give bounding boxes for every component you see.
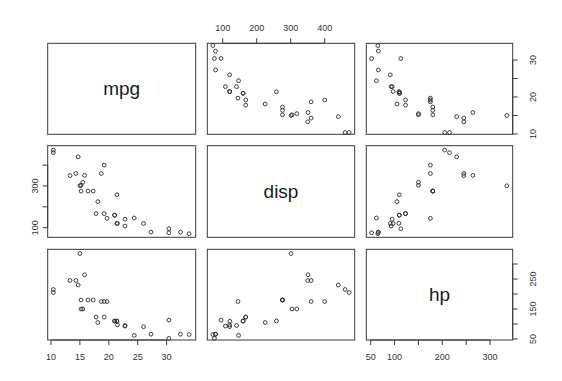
- point-mpg-vs-disp-5: [263, 102, 267, 106]
- tick-label-disp-top-300: 300: [283, 23, 298, 33]
- point-mpg-vs-hp-30: [505, 114, 509, 118]
- point-mpg-vs-disp-21: [295, 112, 299, 116]
- point-hp-vs-disp-25: [214, 332, 218, 336]
- point-hp-vs-disp-2: [224, 324, 228, 328]
- point-hp-vs-disp-30: [289, 252, 293, 256]
- point-hp-vs-mpg-23: [68, 279, 72, 283]
- point-disp-vs-mpg-26: [142, 222, 146, 226]
- point-mpg-vs-hp-17: [376, 49, 380, 53]
- point-disp-vs-hp-15: [448, 151, 452, 155]
- point-hp-vs-mpg-16: [76, 283, 80, 287]
- point-mpg-vs-hp-18: [370, 57, 374, 61]
- point-hp-vs-mpg-12: [91, 298, 95, 302]
- point-mpg-vs-disp-25: [214, 68, 218, 72]
- tick-label-mpg-bottom-20: 20: [104, 352, 114, 362]
- tick-label-disp-top-100: 100: [215, 23, 230, 33]
- point-mpg-vs-hp-9: [404, 98, 408, 102]
- point-mpg-vs-hp-19: [376, 44, 380, 48]
- point-disp-vs-hp-1: [397, 213, 401, 217]
- point-disp-vs-mpg-12: [91, 189, 95, 193]
- point-mpg-vs-disp-7: [237, 79, 241, 83]
- point-disp-vs-mpg-11: [86, 189, 90, 193]
- point-disp-vs-mpg-4: [99, 172, 103, 176]
- point-mpg-vs-disp-8: [235, 85, 239, 89]
- point-mpg-vs-disp-27: [219, 57, 223, 61]
- point-disp-vs-mpg-28: [83, 173, 87, 177]
- point-hp-vs-disp-29: [236, 300, 240, 304]
- point-disp-vs-hp-31: [397, 221, 401, 225]
- point-hp-vs-disp-21: [295, 307, 299, 311]
- scatterplot-matrix: 1015202530100200300400501002003001020301…: [0, 0, 562, 381]
- tick-label-mpg-right-10: 10: [528, 129, 538, 139]
- point-hp-vs-mpg-11: [86, 298, 90, 302]
- point-disp-vs-hp-10: [404, 212, 408, 216]
- tick-label-mpg-right-30: 30: [528, 55, 538, 65]
- point-hp-vs-disp-15: [343, 288, 347, 292]
- point-mpg-vs-disp-6: [309, 116, 313, 120]
- tick-label-hp-right-250: 250: [528, 271, 538, 286]
- point-disp-vs-hp-30: [505, 184, 509, 188]
- point-mpg-vs-disp-26: [228, 73, 232, 77]
- point-disp-vs-hp-4: [428, 172, 432, 176]
- point-hp-vs-disp-28: [306, 273, 310, 277]
- point-mpg-vs-disp-1: [241, 91, 245, 95]
- point-disp-vs-mpg-18: [167, 231, 171, 235]
- point-mpg-vs-disp-4: [309, 100, 313, 104]
- point-mpg-vs-hp-28: [471, 111, 475, 115]
- point-disp-vs-mpg-27: [167, 227, 171, 231]
- point-disp-vs-hp-29: [428, 216, 432, 220]
- point-mpg-vs-disp-10: [244, 103, 248, 107]
- point-mpg-vs-disp-16: [336, 115, 340, 119]
- point-hp-vs-disp-7: [237, 334, 241, 338]
- point-disp-vs-mpg-13: [79, 189, 83, 193]
- point-mpg-vs-hp-10: [404, 103, 408, 107]
- tick-label-mpg-bottom-25: 25: [133, 352, 143, 362]
- point-disp-vs-mpg-16: [76, 155, 80, 159]
- point-mpg-vs-hp-26: [388, 73, 392, 77]
- point-disp-vs-mpg-5: [96, 200, 100, 204]
- point-disp-vs-hp-24: [428, 163, 432, 167]
- point-hp-vs-disp-27: [219, 318, 223, 322]
- point-mpg-vs-disp-24: [323, 98, 327, 102]
- point-mpg-vs-hp-13: [431, 113, 435, 117]
- point-mpg-vs-disp-9: [244, 98, 248, 102]
- point-disp-vs-hp-5: [395, 200, 399, 204]
- point-hp-vs-mpg-25: [149, 332, 153, 336]
- point-mpg-vs-hp-20: [391, 90, 395, 94]
- point-hp-vs-disp-4: [309, 300, 313, 304]
- tick-label-hp-bottom-50: 50: [366, 352, 376, 362]
- point-disp-vs-mpg-19: [187, 232, 191, 236]
- point-hp-vs-mpg-19: [187, 333, 191, 337]
- point-hp-vs-disp-24: [323, 300, 327, 304]
- point-mpg-vs-disp-19: [211, 44, 215, 48]
- point-hp-vs-disp-5: [263, 321, 267, 325]
- tick-label-disp-top-200: 200: [249, 23, 264, 33]
- panel-mpg-vs-disp: [207, 43, 354, 134]
- point-hp-vs-mpg-9: [102, 315, 106, 319]
- point-mpg-vs-hp-5: [395, 102, 399, 106]
- tick-label-hp-right-50: 50: [528, 334, 538, 344]
- point-hp-vs-disp-10: [244, 315, 248, 319]
- point-mpg-vs-disp-29: [236, 96, 240, 100]
- tick-label-hp-bottom-100: 100: [387, 352, 402, 362]
- point-disp-vs-mpg-7: [132, 216, 136, 220]
- tick-label-disp-top-400: 400: [317, 23, 332, 33]
- point-disp-vs-hp-8: [390, 217, 394, 221]
- point-hp-vs-mpg-13: [79, 298, 83, 302]
- point-disp-vs-mpg-29: [105, 216, 109, 220]
- point-mpg-vs-disp-23: [306, 120, 310, 124]
- tick-label-disp-left-300: 300: [30, 178, 40, 193]
- point-disp-vs-hp-28: [471, 173, 475, 177]
- point-hp-vs-disp-22: [290, 307, 294, 311]
- point-mpg-vs-disp-3: [275, 90, 279, 94]
- point-mpg-vs-hp-25: [376, 68, 380, 72]
- point-hp-vs-mpg-30: [78, 252, 82, 256]
- point-hp-vs-disp-1: [241, 319, 245, 323]
- point-disp-vs-mpg-15: [51, 151, 55, 155]
- point-hp-vs-mpg-17: [179, 332, 183, 336]
- point-disp-vs-mpg-25: [149, 230, 153, 234]
- point-disp-vs-mpg-17: [179, 230, 183, 234]
- point-hp-vs-disp-13: [281, 298, 285, 302]
- point-hp-vs-mpg-5: [96, 321, 100, 325]
- point-disp-vs-mpg-6: [74, 172, 78, 176]
